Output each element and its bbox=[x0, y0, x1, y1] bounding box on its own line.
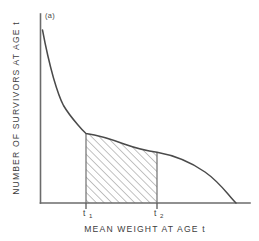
figure-panel: t 1 t 2 (a) MEAN WEIGHT AT AGE t NUMBER … bbox=[0, 0, 259, 241]
tick-label-t2-subscript: 2 bbox=[160, 212, 164, 219]
tick-label-t1: t bbox=[83, 208, 86, 218]
x-tick-labels: t 1 t 2 bbox=[83, 208, 164, 219]
tick-label-t2: t bbox=[154, 208, 157, 218]
x-axis-title: MEAN WEIGHT AT AGE t bbox=[84, 224, 205, 234]
tick-label-t1-subscript: 1 bbox=[89, 212, 93, 219]
survivorship-chart: t 1 t 2 (a) MEAN WEIGHT AT AGE t NUMBER … bbox=[0, 0, 259, 241]
x-axis-ticks bbox=[86, 203, 157, 209]
region-hatch-fill bbox=[84, 128, 160, 206]
shaded-region bbox=[84, 128, 160, 206]
y-axis-title: NUMBER OF SURVIVORS AT AGE t bbox=[11, 21, 21, 195]
panel-label: (a) bbox=[45, 11, 55, 20]
